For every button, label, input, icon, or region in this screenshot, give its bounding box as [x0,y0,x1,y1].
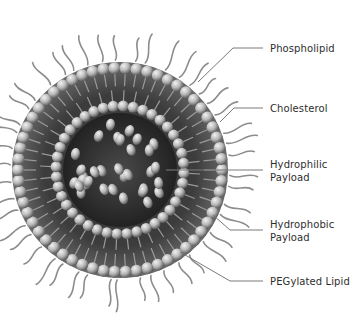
aqueous-core [63,113,177,227]
label-pegylated-lipid: PEGylated Lipid [270,275,350,288]
label-hydrophobic-payload: Hydrophobic Payload [270,218,334,244]
label-cholesterol: Cholesterol [270,102,328,115]
label-hydrophilic-payload: Hydrophilic Payload [270,158,327,184]
label-phospholipid: Phospholipid [270,42,335,55]
liposome-diagram: Phospholipid Cholesterol Hydrophilic Pay… [0,0,361,313]
